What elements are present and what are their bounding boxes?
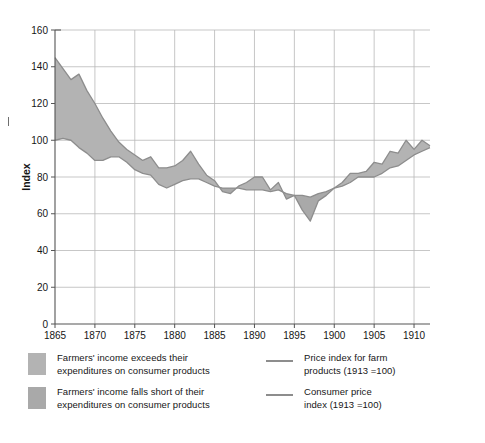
y-tick-label: 0 <box>42 319 48 330</box>
y-tick-label: 80 <box>37 172 49 183</box>
y-axis-title: Index <box>20 163 32 191</box>
legend-label-line1: Consumer price <box>304 386 382 399</box>
legend-item-income-falls-short: Farmers' income falls short of their exp… <box>28 386 253 411</box>
legend-label-line1: Farmers' income exceeds their <box>57 352 210 365</box>
x-tick-label: 1875 <box>124 330 147 341</box>
legend-column-fills: Farmers' income exceeds their expenditur… <box>28 352 253 420</box>
x-tick-label: 1865 <box>44 330 67 341</box>
x-tick-label: 1895 <box>283 330 306 341</box>
y-tick-label: 100 <box>31 135 48 146</box>
y-tick-label: 60 <box>37 208 49 219</box>
x-tick-label: 1870 <box>84 330 107 341</box>
y-tick-label: 40 <box>37 245 49 256</box>
x-tick-label: 1880 <box>164 330 187 341</box>
band-income-exceeds <box>55 58 219 188</box>
y-tick-label: 120 <box>31 98 48 109</box>
legend-item-farm-price-index: Price index for farm products (1913 =100… <box>266 352 481 377</box>
chart-figure: 0204060801001201401601865187018751880188… <box>0 0 485 443</box>
y-tick-label: 160 <box>31 25 48 36</box>
x-tick-label: 1885 <box>203 330 226 341</box>
legend-label-line2: products (1913 =100) <box>304 365 396 378</box>
x-tick-label: 1905 <box>363 330 386 341</box>
legend-item-consumer-price-index: Consumer price index (1913 =100) <box>266 386 481 411</box>
y-tick-label: 20 <box>37 282 49 293</box>
x-tick-label: 1900 <box>323 330 346 341</box>
legend-label-line2: expenditures on consumer products <box>57 365 210 378</box>
price-index-area-chart: 0204060801001201401601865187018751880188… <box>0 0 485 352</box>
legend-label-farm-price-index: Price index for farm products (1913 =100… <box>304 352 396 377</box>
x-tick-label: 1890 <box>243 330 266 341</box>
legend-line-consumer-price-index <box>266 387 293 409</box>
legend-item-income-exceeds: Farmers' income exceeds their expenditur… <box>28 352 253 377</box>
legend-line-farm-price-index <box>266 353 293 375</box>
chart-legend: Farmers' income exceeds their expenditur… <box>0 352 485 440</box>
legend-label-line1: Farmers' income falls short of their <box>57 386 210 399</box>
legend-label-line2: expenditures on consumer products <box>57 399 210 412</box>
legend-swatch-income-exceeds <box>28 353 46 375</box>
y-tick-label: 140 <box>31 61 48 72</box>
legend-label-line2: index (1913 =100) <box>304 399 382 412</box>
legend-label-income-exceeds: Farmers' income exceeds their expenditur… <box>57 352 210 377</box>
legend-swatch-income-falls-short <box>28 387 46 409</box>
x-tick-label: 1910 <box>403 330 426 341</box>
legend-label-line1: Price index for farm <box>304 352 396 365</box>
legend-column-lines: Price index for farm products (1913 =100… <box>266 352 481 420</box>
legend-label-consumer-price-index: Consumer price index (1913 =100) <box>304 386 382 411</box>
legend-label-income-falls-short: Farmers' income falls short of their exp… <box>57 386 210 411</box>
